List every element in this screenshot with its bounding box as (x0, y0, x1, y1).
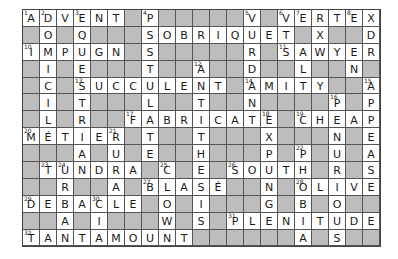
letter-cell[interactable]: 18E (261, 111, 278, 128)
letter-cell[interactable]: L (244, 213, 261, 230)
letter-cell[interactable]: A (74, 145, 91, 162)
letter-cell[interactable]: H (312, 111, 329, 128)
letter-cell[interactable]: L (108, 196, 125, 213)
letter-cell[interactable]: 7E (295, 10, 312, 27)
letter-cell[interactable]: I (329, 179, 346, 196)
letter-cell[interactable]: E (74, 61, 91, 78)
letter-cell[interactable]: I (40, 94, 57, 111)
letter-cell[interactable]: É (210, 179, 227, 196)
letter-cell[interactable]: B (295, 196, 312, 213)
letter-cell[interactable]: 1A (23, 10, 40, 27)
letter-cell[interactable]: C (40, 78, 57, 95)
letter-cell[interactable]: O (125, 230, 142, 247)
letter-cell[interactable]: B (159, 111, 176, 128)
letter-cell[interactable]: 24U (57, 162, 74, 179)
letter-cell[interactable]: 2D (40, 10, 57, 27)
letter-cell[interactable]: U (108, 145, 125, 162)
letter-cell[interactable]: T (278, 162, 295, 179)
letter-cell[interactable]: A (57, 213, 74, 230)
letter-cell[interactable]: P (363, 94, 380, 111)
letter-cell[interactable]: O (159, 27, 176, 44)
letter-cell[interactable]: W (312, 44, 329, 61)
letter-cell[interactable]: 4P (142, 10, 159, 27)
letter-cell[interactable]: A (363, 145, 380, 162)
letter-cell[interactable]: R (244, 44, 261, 61)
letter-cell[interactable]: C (210, 111, 227, 128)
letter-cell[interactable]: E (261, 213, 278, 230)
letter-cell[interactable]: T (142, 128, 159, 145)
letter-cell[interactable]: A (91, 230, 108, 247)
letter-cell[interactable]: R (329, 162, 346, 179)
letter-cell[interactable]: I (40, 61, 57, 78)
letter-cell[interactable]: 13S (74, 78, 91, 95)
letter-cell[interactable]: 23T (40, 162, 57, 179)
letter-cell[interactable]: A (74, 196, 91, 213)
letter-cell[interactable]: 12A (193, 61, 210, 78)
letter-cell[interactable]: X (261, 128, 278, 145)
letter-cell[interactable]: A (295, 44, 312, 61)
letter-cell[interactable]: P (261, 145, 278, 162)
letter-cell[interactable]: 5V (244, 10, 261, 27)
letter-cell[interactable]: A (40, 230, 57, 247)
letter-cell[interactable]: A (346, 111, 363, 128)
letter-cell[interactable]: M (108, 230, 125, 247)
letter-cell[interactable]: S (363, 162, 380, 179)
letter-cell[interactable]: N (108, 44, 125, 61)
letter-cell[interactable]: N (159, 230, 176, 247)
letter-cell[interactable]: N (193, 78, 210, 95)
letter-cell[interactable]: B (176, 27, 193, 44)
letter-cell[interactable]: T (57, 128, 74, 145)
letter-cell[interactable]: S (142, 44, 159, 61)
letter-cell[interactable]: O (159, 196, 176, 213)
letter-cell[interactable]: U (91, 78, 108, 95)
letter-cell[interactable]: I (74, 128, 91, 145)
letter-cell[interactable]: I (295, 213, 312, 230)
letter-cell[interactable]: Q (74, 27, 91, 44)
letter-cell[interactable]: C (125, 78, 142, 95)
letter-cell[interactable]: N (329, 128, 346, 145)
letter-cell[interactable]: V (346, 179, 363, 196)
letter-cell[interactable]: R (108, 162, 125, 179)
letter-cell[interactable]: O (329, 196, 346, 213)
letter-cell[interactable]: A (295, 230, 312, 247)
letter-cell[interactable]: M (40, 44, 57, 61)
letter-cell[interactable]: 22P (295, 145, 312, 162)
letter-cell[interactable]: B (57, 196, 74, 213)
letter-cell[interactable]: 10I (23, 44, 40, 61)
letter-cell[interactable]: E (363, 128, 380, 145)
letter-cell[interactable]: T (108, 10, 125, 27)
letter-cell[interactable]: R (57, 179, 74, 196)
letter-cell[interactable]: 16P (329, 94, 346, 111)
letter-cell[interactable]: 11S (278, 44, 295, 61)
letter-cell[interactable]: P (363, 111, 380, 128)
letter-cell[interactable]: 27B (142, 179, 159, 196)
letter-cell[interactable]: T (210, 78, 227, 95)
letter-cell[interactable]: E (125, 196, 142, 213)
letter-cell[interactable]: L (312, 179, 329, 196)
letter-cell[interactable]: R (363, 44, 380, 61)
letter-cell[interactable]: 26S (227, 162, 244, 179)
letter-cell[interactable]: T (244, 111, 261, 128)
letter-cell[interactable]: I (91, 213, 108, 230)
letter-cell[interactable]: T (329, 10, 346, 27)
letter-cell[interactable]: L (159, 78, 176, 95)
letter-cell[interactable]: Y (312, 78, 329, 95)
letter-cell[interactable]: U (329, 145, 346, 162)
letter-cell[interactable]: H (295, 162, 312, 179)
letter-cell[interactable]: T (312, 213, 329, 230)
letter-cell[interactable]: N (346, 61, 363, 78)
letter-cell[interactable]: E (363, 213, 380, 230)
letter-cell[interactable]: O (244, 162, 261, 179)
letter-cell[interactable]: E (261, 27, 278, 44)
letter-cell[interactable]: T (74, 230, 91, 247)
letter-cell[interactable]: D (244, 61, 261, 78)
letter-cell[interactable]: A (125, 162, 142, 179)
letter-cell[interactable]: R (74, 111, 91, 128)
letter-cell[interactable]: D (346, 213, 363, 230)
letter-cell[interactable]: L (159, 179, 176, 196)
letter-cell[interactable]: T (278, 27, 295, 44)
letter-cell[interactable]: N (91, 10, 108, 27)
letter-cell[interactable]: X (312, 27, 329, 44)
letter-cell[interactable]: R (193, 27, 210, 44)
letter-cell[interactable]: E (40, 196, 57, 213)
